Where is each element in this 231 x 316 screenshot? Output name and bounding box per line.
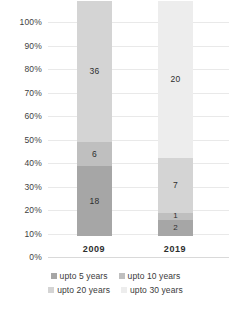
legend-label: upto 10 years xyxy=(128,272,181,281)
legend-label: upto 30 years xyxy=(130,286,183,295)
legend-label: upto 20 years xyxy=(57,286,110,295)
bar-column[interactable]: 21720 xyxy=(158,1,193,236)
x-axis: 20092019 xyxy=(48,242,229,262)
bar-segment-value-label: 2 xyxy=(173,224,178,232)
y-axis-tick-label: 70% xyxy=(24,88,42,98)
y-axis-tick-label: 20% xyxy=(24,205,42,215)
legend-swatch-icon xyxy=(119,273,125,279)
bar-segment[interactable]: 20 xyxy=(158,1,193,158)
y-axis-tick-label: 100% xyxy=(19,17,42,27)
y-axis-tick-label: 30% xyxy=(24,182,42,192)
bar-segment-value-label: 18 xyxy=(89,197,99,206)
y-axis-tick-label: 10% xyxy=(24,229,42,239)
bar-segment[interactable]: 18 xyxy=(77,166,112,237)
x-axis-tick-label: 2019 xyxy=(145,244,205,254)
legend-item[interactable]: upto 10 years xyxy=(119,272,181,281)
bar-stack: 21720 xyxy=(158,1,193,236)
stacked-bar-chart: 100%90%80%70%60%50%40%30%20%10%0% 186362… xyxy=(0,0,231,316)
legend-label: upto 5 years xyxy=(60,272,108,281)
bars-layer: 1863621720 xyxy=(48,0,229,266)
legend-item[interactable]: upto 20 years xyxy=(48,286,110,295)
x-axis-tick-label: 2009 xyxy=(64,244,124,254)
bar-segment[interactable]: 7 xyxy=(158,158,193,213)
legend-swatch-icon xyxy=(48,287,54,293)
y-axis-tick-label: 0% xyxy=(29,252,42,262)
legend-row: upto 20 yearsupto 30 years xyxy=(48,286,183,295)
bar-segment[interactable]: 2 xyxy=(158,220,193,236)
bar-segment-value-label: 36 xyxy=(89,67,99,76)
chart-legend: upto 5 yearsupto 10 yearsupto 20 yearsup… xyxy=(0,272,231,294)
bar-segment[interactable]: 36 xyxy=(77,1,112,142)
legend-row: upto 5 yearsupto 10 years xyxy=(51,272,181,281)
y-axis-tick-label: 40% xyxy=(24,158,42,168)
bar-segment-value-label: 20 xyxy=(170,75,180,84)
bar-segment[interactable]: 6 xyxy=(77,142,112,166)
y-axis-tick-label: 90% xyxy=(24,41,42,51)
bar-segment-value-label: 6 xyxy=(92,150,97,159)
bar-stack: 18636 xyxy=(77,1,112,236)
plot-area: 100%90%80%70%60%50%40%30%20%10%0% 186362… xyxy=(0,0,231,266)
legend-item[interactable]: upto 30 years xyxy=(121,286,183,295)
y-axis-tick-label: 50% xyxy=(24,135,42,145)
legend-swatch-icon xyxy=(51,273,57,279)
y-axis: 100%90%80%70%60%50%40%30%20%10%0% xyxy=(0,0,46,266)
bar-segment-value-label: 7 xyxy=(173,181,178,190)
y-axis-tick-label: 60% xyxy=(24,111,42,121)
legend-swatch-icon xyxy=(121,287,127,293)
bar-segment-value-label: 1 xyxy=(173,212,178,220)
legend-item[interactable]: upto 5 years xyxy=(51,272,108,281)
bar-segment[interactable]: 1 xyxy=(158,213,193,221)
y-axis-tick-label: 80% xyxy=(24,64,42,74)
bar-column[interactable]: 18636 xyxy=(77,1,112,236)
